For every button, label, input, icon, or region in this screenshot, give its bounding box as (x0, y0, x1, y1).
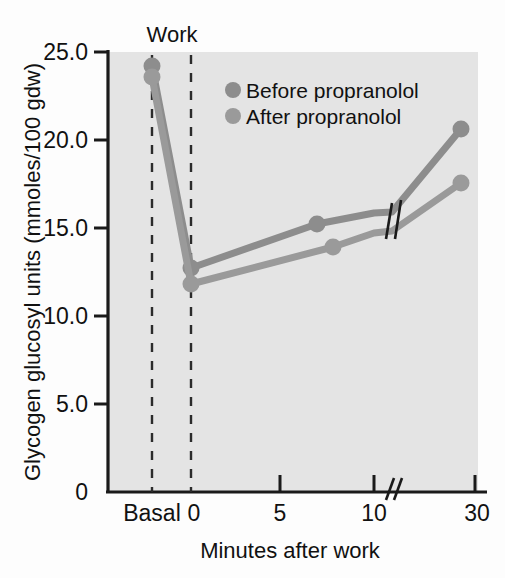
y-tick-label-20: 20.0 (43, 127, 88, 153)
data-point-before-30 (453, 121, 470, 138)
y-axis-title: Glycogen glucosyl units (mmoles/100 gdw) (20, 63, 45, 481)
y-axis-ticks (94, 52, 108, 404)
x-tick-label-0: 0 (188, 500, 201, 526)
legend-marker-before (225, 82, 241, 98)
x-tick-label-10: 10 (361, 500, 387, 526)
work-annotation-label: Work (147, 22, 199, 47)
data-point-after-0 (183, 276, 200, 293)
x-axis-title: Minutes after work (200, 538, 381, 563)
y-tick-label-5: 5.0 (56, 391, 88, 417)
y-tick-label-15: 15.0 (43, 215, 88, 241)
figure-container: 25.0 20.0 15.0 10.0 5.0 0 Basal 0 5 10 3… (0, 0, 505, 578)
glycogen-line-chart: 25.0 20.0 15.0 10.0 5.0 0 Basal 0 5 10 3… (0, 0, 505, 578)
legend-label-after: After propranolol (246, 105, 401, 128)
data-point-after-basal (144, 69, 161, 86)
y-tick-label-25: 25.0 (43, 39, 88, 65)
data-point-after-30 (453, 175, 470, 192)
y-tick-label-0: 0 (75, 479, 88, 505)
x-tick-label-5: 5 (274, 500, 287, 526)
data-point-before-7 (309, 216, 326, 233)
legend-label-before: Before propranolol (246, 79, 419, 102)
y-tick-label-10: 10.0 (43, 303, 88, 329)
x-tick-label-basal: Basal (123, 500, 181, 526)
data-point-after-8 (325, 239, 342, 256)
legend-marker-after (225, 108, 241, 124)
x-tick-label-30: 30 (464, 500, 490, 526)
